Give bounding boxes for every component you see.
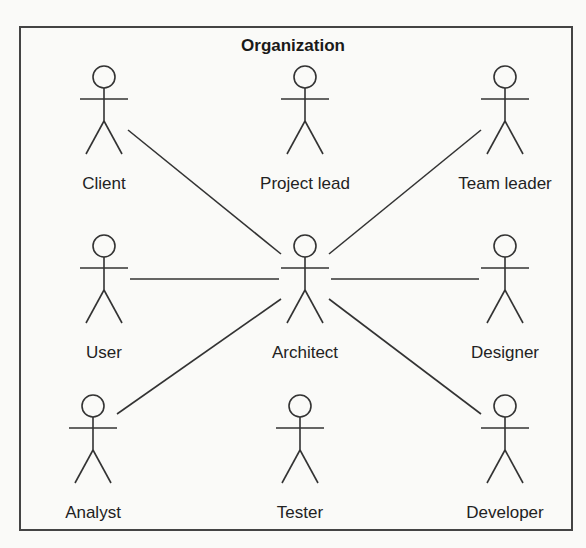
actor-user-icon (80, 235, 128, 323)
actor-tester-icon (276, 395, 324, 483)
actor-architect-icon (281, 235, 329, 323)
actor-developer-icon (481, 395, 529, 483)
actor-label-architect: Architect (225, 343, 385, 363)
actor-team-leader-icon (481, 66, 529, 154)
actor-label-designer: Designer (425, 343, 585, 363)
actor-label-developer: Developer (425, 503, 585, 523)
actor-label-project-lead: Project lead (225, 174, 385, 194)
actor-label-team-leader: Team leader (425, 174, 585, 194)
actor-project-lead-icon (281, 66, 329, 154)
actor-label-user: User (24, 343, 184, 363)
actor-label-analyst: Analyst (13, 503, 173, 523)
diagram-canvas (0, 0, 586, 548)
actor-analyst-icon (69, 395, 117, 483)
actor-label-client: Client (24, 174, 184, 194)
actor-label-tester: Tester (220, 503, 380, 523)
actor-designer-icon (481, 235, 529, 323)
actor-client-icon (80, 66, 128, 154)
